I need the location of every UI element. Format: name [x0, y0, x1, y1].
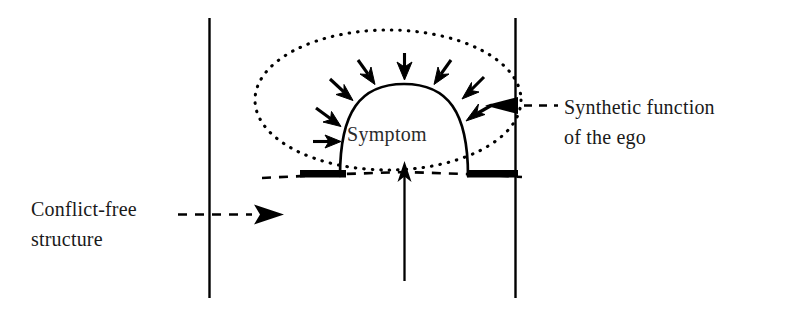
inward-arrow-2 — [316, 108, 341, 127]
left-base-bar — [300, 170, 346, 178]
inward-arrow-5 — [397, 53, 412, 80]
synthetic-function-label: Synthetic function of the ego — [564, 92, 715, 152]
inward-arrow-4 — [358, 60, 375, 85]
ego-callout-arrowhead — [485, 97, 518, 114]
inward-arrow-6 — [434, 60, 451, 85]
diagram-figure — [0, 0, 786, 316]
inward-arrow-1 — [313, 135, 341, 148]
upward-arrow — [398, 161, 412, 281]
symptom-label: Symptom — [347, 119, 427, 149]
conflict-free-callout — [178, 205, 284, 225]
conflict-free-line-1: Conflict-free — [31, 194, 137, 224]
inward-arrow-7 — [462, 77, 484, 99]
synthetic-function-line-2: of the ego — [564, 122, 715, 152]
inward-arrow-8 — [466, 104, 492, 121]
right-base-bar — [467, 170, 518, 178]
conflict-free-line-2: structure — [31, 224, 137, 254]
conflict-free-arrowhead — [254, 205, 284, 225]
conflict-free-structure-label: Conflict-free structure — [31, 194, 137, 254]
dotted-ellipse-ego-envelope — [255, 30, 521, 170]
inward-arrow-3 — [330, 79, 353, 101]
diagram-canvas: Symptom Synthetic function of the ego Co… — [0, 0, 786, 316]
synthetic-function-line-1: Synthetic function — [564, 92, 715, 122]
